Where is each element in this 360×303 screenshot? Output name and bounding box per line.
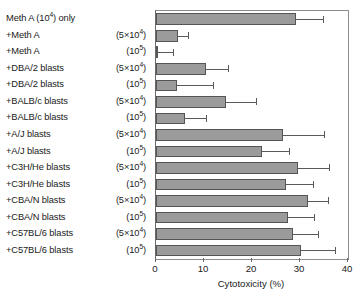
error-bar-cap [173, 49, 174, 56]
error-bar-line [157, 52, 172, 53]
x-axis-tick [203, 258, 204, 262]
bar [156, 228, 293, 240]
category-label-dose: (105) [126, 245, 150, 255]
error-bar-cap [323, 16, 324, 23]
category-label-name: +C57BL/6 blasts [0, 245, 73, 255]
error-bar-cap [213, 82, 214, 89]
x-axis-tick-label: 10 [198, 263, 209, 274]
error-bar-line [178, 36, 188, 37]
category-label-name: +CBA/N blasts [0, 195, 65, 205]
x-axis-tick-label: 40 [342, 263, 353, 274]
category-label-row: +DBA/2 blasts(5×104) [0, 60, 150, 77]
bar [156, 129, 283, 141]
error-bar-cap [313, 181, 314, 188]
category-label-name: +A/J blasts [0, 129, 51, 139]
x-axis-tick [155, 258, 156, 262]
bar [156, 245, 301, 257]
category-label-name: +BALB/c blasts [0, 112, 68, 122]
bar [156, 179, 286, 191]
category-label-dose: (105) [126, 179, 150, 189]
error-bar-line [308, 201, 328, 202]
category-label-name: +CBA/N blasts [0, 212, 65, 222]
category-label-row: +CBA/N blasts(5×104) [0, 192, 150, 209]
x-axis-tick-label: 0 [152, 263, 157, 274]
category-label-row: +CBA/N blasts(105) [0, 208, 150, 225]
category-label-dose: (5×104) [116, 30, 150, 40]
bar [156, 146, 262, 158]
bar-row [156, 28, 348, 45]
category-label-name: Meth A (104) only [0, 13, 75, 23]
error-bar-line [283, 135, 323, 136]
x-axis: Cytotoxicity (%) 010203040 [155, 258, 347, 303]
category-label-row: Meth A (104) only [0, 10, 150, 27]
error-bar-line [288, 217, 314, 218]
bar-row [156, 209, 348, 226]
error-bar-cap [318, 231, 319, 238]
bar-row [156, 226, 348, 243]
category-label-row: +A/J blasts(5×104) [0, 126, 150, 143]
error-bar-line [296, 19, 323, 20]
bar [156, 195, 308, 207]
category-label-row: +C57BL/6 blasts(5×104) [0, 225, 150, 242]
category-label-row: +Meth A(105) [0, 43, 150, 60]
error-bar-line [177, 85, 213, 86]
bar-row [156, 242, 348, 259]
error-bar-line [262, 151, 290, 152]
category-label-name: +Meth A [0, 46, 40, 56]
category-label-dose: (5×104) [116, 63, 150, 73]
category-label-dose: (5×104) [116, 96, 150, 106]
error-bar-cap [335, 247, 336, 254]
error-bar-line [206, 69, 228, 70]
bar-row [156, 11, 348, 28]
error-bar-cap [256, 98, 257, 105]
bar-row [156, 127, 348, 144]
bar-row [156, 143, 348, 160]
error-bar-line [298, 168, 329, 169]
bar-row [156, 44, 348, 61]
x-axis-title: Cytotoxicity (%) [155, 278, 347, 289]
error-bar-cap [206, 115, 207, 122]
bar [156, 113, 185, 125]
bar [156, 96, 226, 108]
category-label-row: +Meth A(5×104) [0, 27, 150, 44]
category-label-dose: (105) [126, 146, 150, 156]
category-label-name: +A/J blasts [0, 146, 51, 156]
category-label-row: +DBA/2 blasts(105) [0, 76, 150, 93]
category-label-row: +C57BL/6 blasts(105) [0, 241, 150, 258]
category-label-dose: (105) [126, 112, 150, 122]
bar-row [156, 176, 348, 193]
x-axis-tick-label: 30 [294, 263, 305, 274]
x-axis-tick [347, 258, 348, 262]
bar [156, 162, 298, 174]
category-label-dose: (5×104) [116, 228, 150, 238]
bar-row [156, 77, 348, 94]
category-label-row: +C3H/He blasts(5×104) [0, 159, 150, 176]
category-label-name: +DBA/2 blasts [0, 63, 64, 73]
bar-row [156, 193, 348, 210]
error-bar-cap [329, 164, 330, 171]
error-bar-line [185, 118, 206, 119]
category-label-column: Meth A (104) only+Meth A(5×104)+Meth A(1… [0, 10, 150, 258]
category-label-name: +BALB/c blasts [0, 96, 68, 106]
bar [156, 13, 296, 25]
bar-row [156, 94, 348, 111]
plot-area [155, 10, 349, 260]
bar-row [156, 110, 348, 127]
error-bar-cap [328, 197, 329, 204]
category-label-name: +DBA/2 blasts [0, 79, 64, 89]
cytotoxicity-bar-chart: Meth A (104) only+Meth A(5×104)+Meth A(1… [0, 0, 360, 303]
x-axis-tick [299, 258, 300, 262]
error-bar-cap [188, 32, 189, 39]
bar-row [156, 160, 348, 177]
category-label-dose: (105) [126, 46, 150, 56]
error-bar-cap [324, 131, 325, 138]
x-axis-tick-label: 20 [246, 263, 257, 274]
error-bar-line [226, 102, 256, 103]
category-label-row: +BALB/c blasts(105) [0, 109, 150, 126]
category-label-dose: (5×104) [116, 129, 150, 139]
error-bar-line [286, 184, 313, 185]
error-bar-cap [314, 214, 315, 221]
category-label-name: +C3H/He blasts [0, 179, 70, 189]
category-label-name: +C3H/He blasts [0, 162, 70, 172]
bar [156, 63, 206, 75]
